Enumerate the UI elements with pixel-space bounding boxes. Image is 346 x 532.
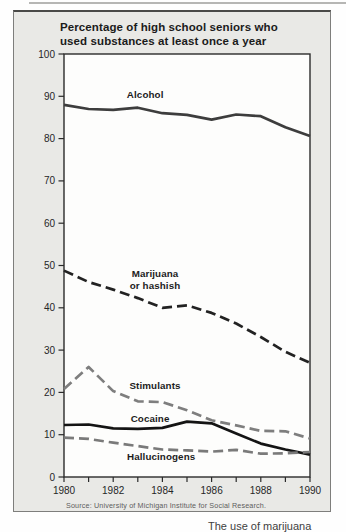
top-rule <box>29 2 346 4</box>
x-tick-label: 1988 <box>250 485 273 496</box>
chart-card: Percentage of high school seniors who us… <box>13 10 331 512</box>
y-tick-label: 0 <box>49 472 55 483</box>
caption-fragment: The use of marijuana <box>208 520 311 532</box>
x-tick-label: 1986 <box>200 485 223 496</box>
y-tick-label: 80 <box>44 133 56 144</box>
x-tick-label: 1980 <box>53 485 76 496</box>
series-label-marijuana-or-hashish: or hashish <box>130 280 181 291</box>
y-tick-label: 40 <box>44 302 56 313</box>
y-tick-label: 30 <box>44 345 56 356</box>
y-tick-label: 60 <box>44 218 56 229</box>
chart-source: Source: University of Michigan Institute… <box>66 501 266 510</box>
series-label-stimulants: Stimulants <box>129 380 181 391</box>
x-tick-label: 1984 <box>151 485 174 496</box>
page: Percentage of high school seniors who us… <box>0 0 346 532</box>
y-tick-label: 50 <box>44 260 56 271</box>
y-tick-label: 90 <box>44 91 56 102</box>
y-tick-label: 20 <box>44 387 56 398</box>
series-label-hallucinogens: Hallucinogens <box>127 451 196 462</box>
x-tick-label: 1990 <box>299 485 322 496</box>
y-tick-label: 10 <box>44 429 56 440</box>
plot-area <box>64 54 310 477</box>
series-label-marijuana-or-hashish: Marijuana <box>132 268 179 279</box>
series-label-cocaine: Cocaine <box>131 413 170 424</box>
series-label-alcohol: Alcohol <box>127 89 164 100</box>
x-tick-label: 1982 <box>102 485 125 496</box>
y-tick-label: 70 <box>44 175 56 186</box>
chart-svg: 0102030405060708090100198019821984198619… <box>14 12 330 511</box>
y-tick-label: 100 <box>38 49 55 60</box>
